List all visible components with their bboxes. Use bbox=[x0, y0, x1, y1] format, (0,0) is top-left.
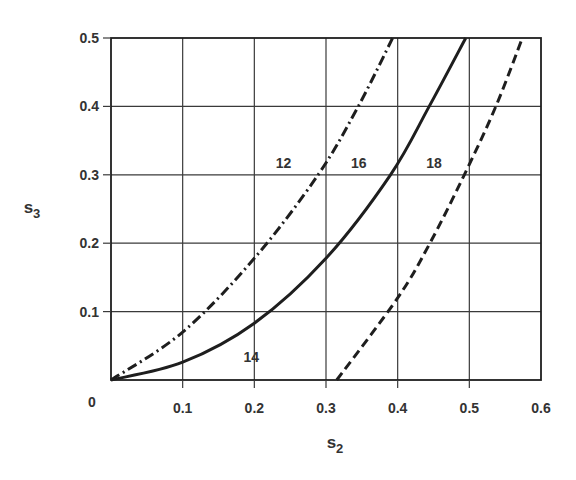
curves bbox=[111, 38, 522, 380]
x-tick-label: 0.5 bbox=[460, 400, 480, 416]
x-tick-label: 0.6 bbox=[531, 400, 551, 416]
grid-lines bbox=[111, 38, 541, 380]
curve-label-12: 12 bbox=[276, 155, 292, 171]
curve-12 bbox=[111, 38, 393, 380]
curve-16 bbox=[111, 38, 466, 380]
x-tick-label: 0.1 bbox=[173, 400, 193, 416]
x-tick-label: 0.2 bbox=[245, 400, 265, 416]
y-tick-label: 0.3 bbox=[80, 167, 100, 183]
curve-label-14: 14 bbox=[244, 349, 260, 365]
x-tick-label: 0.3 bbox=[316, 400, 336, 416]
x-tick-label: 0.4 bbox=[388, 400, 408, 416]
y-axis-title: s3 bbox=[24, 198, 41, 221]
x-axis-title: s2 bbox=[327, 433, 344, 456]
y-tick-label: 0.1 bbox=[80, 304, 100, 320]
y-tick-label: 0.4 bbox=[80, 98, 100, 114]
curve-label-16: 16 bbox=[351, 155, 367, 171]
curve-label-18: 18 bbox=[426, 155, 442, 171]
chart: 0.10.20.30.40.50.6 0.10.20.30.40.5 12161… bbox=[0, 0, 576, 480]
x-axis-ticks: 0.10.20.30.40.50.6 bbox=[173, 380, 551, 416]
y-tick-label: 0.5 bbox=[80, 30, 100, 46]
y-axis-ticks: 0.10.20.30.40.5 bbox=[80, 30, 111, 320]
curve-labels: 12161814 bbox=[244, 155, 443, 365]
y-tick-label: 0.2 bbox=[80, 235, 100, 251]
origin-label: 0 bbox=[88, 394, 96, 410]
